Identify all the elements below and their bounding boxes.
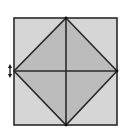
vertex-top: [65, 17, 68, 20]
double-vertical-arrow-icon: [8, 64, 12, 78]
square-diamond-diagram: [0, 0, 126, 132]
vertex-right: [116, 70, 119, 73]
vertex-bottom: [65, 124, 68, 127]
